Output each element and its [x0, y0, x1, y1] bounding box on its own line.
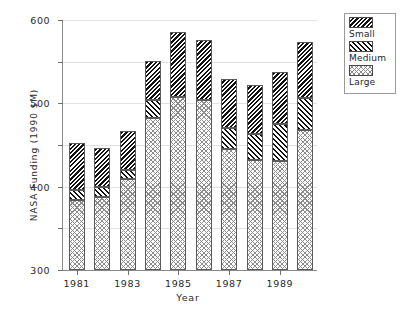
y-axis-tick: 400: [58, 103, 63, 104]
bar-segment-medium: [69, 190, 85, 200]
bar-1983: [120, 131, 136, 270]
legend-label: Large: [349, 77, 392, 88]
y-axis-tick: 500: [58, 62, 63, 63]
y-axis-title: NASA Funding (1990 $M): [29, 35, 39, 275]
x-axis-tick-label: 1981: [63, 278, 90, 289]
legend-label: Small: [349, 29, 392, 40]
bar-1986: [196, 40, 212, 270]
x-axis-tick: [128, 270, 129, 275]
legend: SmallMediumLarge: [344, 13, 396, 94]
bar-1988: [247, 85, 263, 270]
legend-swatch-medium: [349, 41, 373, 52]
bar-segment-medium: [297, 98, 313, 130]
bar-1981: [69, 143, 85, 270]
legend-label: Medium: [349, 53, 392, 64]
y-axis-tick: 600: [58, 20, 63, 21]
bar-segment-large: [94, 197, 110, 270]
y-axis-tick-label: 300: [30, 265, 50, 276]
bar-segment-small: [247, 85, 263, 134]
x-axis-tick-label: 1989: [267, 278, 294, 289]
bar-1984: [145, 61, 161, 270]
bar-segment-small: [170, 32, 186, 97]
bar-segment-small: [120, 131, 136, 170]
legend-item-small[interactable]: Small: [349, 17, 392, 40]
x-axis-tick-label: 1985: [165, 278, 192, 289]
x-axis-tick: [178, 270, 179, 275]
bar-segment-large: [272, 161, 288, 270]
legend-swatch-small: [349, 17, 373, 28]
bar-segment-medium: [94, 187, 110, 197]
bar-1990: [297, 42, 313, 270]
x-axis-tick-label: 1987: [216, 278, 243, 289]
x-axis-tick: [77, 270, 78, 275]
y-axis-tick-label: 400: [30, 181, 50, 192]
bar-segment-small: [297, 42, 313, 98]
bar-segment-small: [221, 79, 237, 128]
bar-segment-large: [145, 118, 161, 270]
y-axis-tick-label: 600: [30, 15, 50, 26]
bar-segment-small: [69, 143, 85, 190]
bar-1982: [94, 148, 110, 270]
bar-segment-small: [94, 148, 110, 187]
x-axis-title: Year: [60, 292, 316, 303]
y-axis-tick-label: 500: [30, 98, 50, 109]
bar-segment-large: [297, 130, 313, 270]
gridline: [63, 62, 317, 63]
bar-segment-large: [196, 100, 212, 270]
bar-segment-medium: [120, 170, 136, 179]
y-axis-tick: 100: [58, 228, 63, 229]
bar-segment-small: [145, 61, 161, 100]
bar-segment-medium: [272, 124, 288, 161]
gridline: [63, 20, 317, 21]
bar-segment-large: [247, 160, 263, 270]
bar-segment-large: [120, 179, 136, 270]
legend-swatch-large: [349, 65, 373, 76]
x-axis-tick: [280, 270, 281, 275]
bar-segment-medium: [247, 134, 263, 160]
legend-item-large[interactable]: Large: [349, 65, 392, 88]
bar-segment-large: [69, 200, 85, 270]
bar-segment-small: [196, 40, 212, 100]
y-axis-tick: 0: [58, 270, 63, 271]
legend-item-medium[interactable]: Medium: [349, 41, 392, 64]
bar-1989: [272, 72, 288, 270]
y-axis-tick: 300: [58, 145, 63, 146]
x-axis-tick-label: 1983: [114, 278, 141, 289]
bar-segment-medium: [221, 128, 237, 149]
plot-area: 0100200300400500600 19811983198519871989: [62, 20, 317, 271]
bar-1987: [221, 79, 237, 270]
y-axis-tick: 200: [58, 187, 63, 188]
bar-segment-medium: [145, 100, 161, 118]
bar-segment-small: [272, 72, 288, 124]
bar-segment-large: [221, 149, 237, 270]
bar-segment-large: [170, 97, 186, 270]
bar-1985: [170, 32, 186, 270]
chart-figure: NASA Funding (1990 $M) Year 010020030040…: [0, 0, 402, 311]
x-axis-tick: [229, 270, 230, 275]
